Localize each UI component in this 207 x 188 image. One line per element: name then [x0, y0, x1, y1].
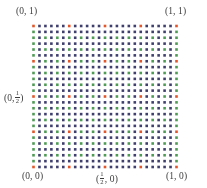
corner-label-bottom-left: (0, 0)	[22, 171, 43, 181]
bottom-half-denominator: 2	[100, 179, 105, 186]
axis-label-bottom-half: (12, 0)	[96, 171, 118, 185]
axis-label-left-half: (0,12)	[4, 90, 23, 104]
corner-label-bottom-right: (1, 0)	[166, 171, 187, 181]
bottom-half-suffix: , 0)	[105, 174, 118, 184]
bottom-half-fraction: 12	[100, 171, 105, 185]
corner-label-top-left: (0, 1)	[16, 6, 37, 16]
left-half-denominator: 2	[15, 98, 20, 105]
lattice-figure: (0, 1) (1, 1) (0,12) (0, 0) (12, 0) (1, …	[0, 0, 207, 188]
corner-label-top-right: (1, 1)	[165, 6, 186, 16]
left-half-fraction: 12	[15, 90, 20, 104]
left-half-suffix: )	[20, 93, 23, 103]
lattice-dot-grid	[0, 0, 207, 188]
bottom-half-prefix: (	[96, 174, 99, 184]
left-half-prefix: (0,	[4, 93, 15, 103]
